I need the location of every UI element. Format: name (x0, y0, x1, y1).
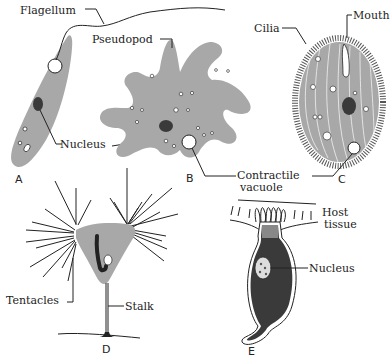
label-flagellum: Flagellum (20, 4, 76, 17)
label-tentacles: Tentacles (6, 294, 59, 307)
label-nucleus-a: Nucleus (60, 138, 106, 151)
label-pseudopod: Pseudopod (92, 33, 153, 46)
letter-a: A (15, 173, 23, 186)
amoeba-contractile-vacuole (182, 135, 196, 149)
label-nucleus-e: Nucleus (309, 262, 355, 275)
host-tissue-top (238, 200, 316, 204)
letter-b: B (186, 172, 194, 185)
organism-b (100, 40, 251, 158)
label-mouth: Mouth (353, 9, 389, 22)
label-cilia: Cilia (254, 22, 280, 35)
stalk (106, 283, 108, 334)
organism-c (295, 38, 383, 166)
flagellate-vacuole (48, 59, 62, 73)
label-stalk: Stalk (125, 300, 154, 313)
organism-e (230, 200, 318, 344)
letter-d: D (102, 343, 110, 356)
parasite-nucleus (255, 257, 271, 279)
suctorian-body (76, 223, 135, 284)
amoeba-nucleus (159, 120, 173, 132)
organism-d (26, 168, 178, 338)
label-vacuole: vacuole (239, 181, 283, 194)
letter-c: C (338, 173, 346, 186)
letter-e: E (248, 345, 255, 358)
protozoa-diagram: Flagellum Nucleus A Pseudopod Contractil… (0, 0, 392, 358)
flagellate-nucleus (33, 97, 43, 111)
amoeba-body (100, 40, 251, 158)
paramecium-nucleus (342, 97, 356, 115)
label-tissue: tissue (324, 218, 357, 231)
